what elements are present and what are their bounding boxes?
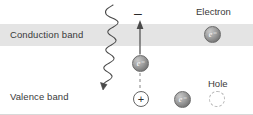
photon-wavy-arrow [101, 5, 119, 90]
excitation-arrowhead [137, 20, 144, 29]
conduction-band-electron-icon: e⁻ [204, 26, 221, 43]
band-diagram-figure: Conduction band Valence band Electron Ho… [0, 0, 253, 115]
excited-electron-icon: e⁻ [132, 55, 149, 72]
excitation-arrow [137, 20, 144, 54]
photon-arrowhead [101, 83, 108, 91]
valence-band-electron-icon: e⁻ [174, 91, 191, 108]
hole-icon [209, 91, 225, 107]
positive-charge-sign: + [133, 91, 149, 107]
